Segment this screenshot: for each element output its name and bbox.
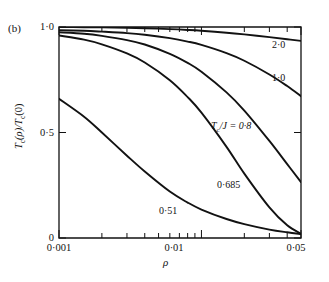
y-tick-label-0point5: 0·5 [30, 128, 54, 139]
curve-2 [59, 32, 301, 182]
x-tick-label-0point001: 0·001 [34, 243, 84, 254]
curve-label-2point0: 2·0 [272, 40, 285, 50]
y-axis-title-t2: T [13, 119, 24, 125]
curve-label-0point51: 0·51 [159, 206, 177, 216]
curve-0 [59, 27, 301, 41]
y-axis-title-sub1: c [18, 140, 27, 143]
curve-group [59, 27, 301, 234]
curve-label-tc-over-j-0point8: Tc/J = 0·8 [211, 121, 251, 134]
x-tick-label-0point05: 0·05 [274, 243, 318, 254]
y-tick-label-1: 1·0 [30, 22, 54, 33]
y-axis-title-zero: (0) [13, 104, 24, 116]
curve-4 [59, 99, 301, 234]
curve-label-tc-suffix: /J = 0·8 [220, 120, 251, 131]
curve-label-1point0: 1·0 [272, 73, 285, 83]
y-axis-title-t1: T [13, 143, 24, 149]
figure-panel-b: (b) 1·0 0·5 0 0·001 0·01 0·05 ρ Tc(ρ)/Tc… [0, 0, 329, 282]
y-axis-title-rho: (ρ)/ [13, 125, 24, 140]
y-axis-title: Tc(ρ)/Tc(0) [14, 78, 27, 174]
curve-label-0point685: 0·685 [217, 180, 240, 190]
curve-1 [59, 30, 301, 96]
x-tick-label-0point01: 0·01 [152, 243, 196, 254]
y-axis-title-sub2: c [18, 116, 27, 119]
panel-label: (b) [8, 23, 21, 34]
x-axis-title: ρ [163, 257, 168, 268]
